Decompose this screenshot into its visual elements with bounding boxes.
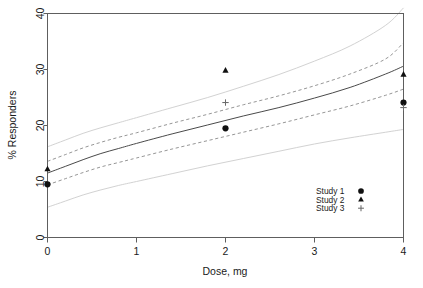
y-axis-title: % Responders (6, 91, 18, 160)
chart-legend: Study 1Study 2Study 3 (316, 186, 364, 213)
y-axis-ticks: 010203040 (34, 8, 48, 241)
y-tick-label: 0 (34, 234, 46, 240)
chart-page: 010203040 01234 Dose, mg % Responders St… (0, 0, 423, 288)
data-point-triangle (222, 67, 228, 73)
y-tick-label: 10 (34, 176, 46, 188)
curve-pi-lower-outer (48, 129, 404, 207)
dose-response-chart: 010203040 01234 Dose, mg % Responders St… (0, 0, 423, 288)
legend-marker-plus (358, 205, 364, 211)
x-tick-label: 4 (401, 245, 407, 257)
x-tick-label: 0 (45, 245, 51, 257)
legend-marker-triangle (358, 196, 364, 201)
x-axis-title: Dose, mg (203, 265, 248, 277)
legend-label-3: Study 3 (316, 203, 345, 213)
data-point-plus (222, 99, 228, 105)
data-point-circle (222, 125, 228, 131)
y-tick-label: 40 (34, 8, 46, 20)
data-point-triangle (44, 166, 50, 172)
data-point-group (44, 67, 406, 187)
x-tick-label: 2 (223, 245, 229, 257)
prediction-band-group (48, 8, 404, 207)
data-point-circle (44, 181, 50, 187)
y-tick-label: 30 (34, 64, 46, 76)
confidence-band-group (48, 43, 404, 185)
data-point-triangle (400, 71, 406, 77)
curve-model-mean (48, 66, 404, 173)
x-tick-label: 3 (312, 245, 318, 257)
data-point-plus (400, 104, 406, 110)
model-mean-curve-group (48, 66, 404, 173)
legend-marker-circle (358, 188, 364, 194)
x-tick-label: 1 (134, 245, 140, 257)
x-axis-ticks: 01234 (45, 238, 407, 257)
y-tick-label: 20 (34, 120, 46, 132)
